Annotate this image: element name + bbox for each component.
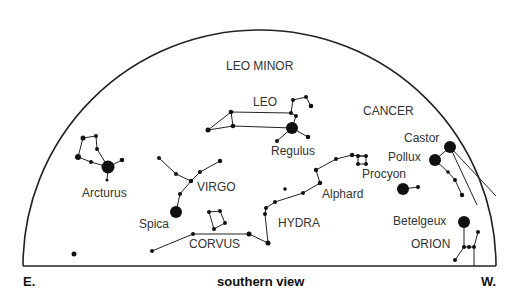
- label-leo-minor: LEO MINOR: [226, 60, 293, 72]
- star-castor: [444, 141, 456, 153]
- star-regulus: [286, 122, 298, 134]
- leo-lines: [208, 112, 292, 130]
- star-chart: [0, 0, 518, 302]
- virgo-lines: [159, 158, 220, 181]
- label-hydra: HYDRA: [278, 217, 320, 229]
- label-virgo: VIRGO: [197, 181, 236, 193]
- gemini-lines: [435, 147, 477, 205]
- label-west: W.: [481, 275, 496, 288]
- star-procyon: [397, 183, 409, 195]
- label-southern-view: southern view: [217, 275, 304, 288]
- label-betelgeux: Betelgeux: [393, 215, 446, 227]
- corvus-lines: [209, 211, 225, 229]
- label-east: E.: [23, 275, 35, 288]
- label-leo: LEO: [253, 96, 277, 108]
- star-betelgeux: [458, 216, 470, 228]
- hydra-lines: [152, 155, 364, 251]
- label-pollux: Pollux: [388, 151, 421, 163]
- label-arcturus: Arcturus: [82, 187, 127, 199]
- label-corvus: CORVUS: [189, 238, 240, 250]
- label-procyon: Procyon: [362, 168, 406, 180]
- star-arcturus: [102, 161, 115, 174]
- label-alphard: Alphard: [322, 188, 363, 200]
- label-regulus: Regulus: [271, 145, 315, 157]
- star-pollux: [429, 154, 441, 166]
- label-spica: Spica: [139, 218, 169, 230]
- label-orion: ORION: [411, 238, 450, 250]
- label-castor: Castor: [404, 132, 439, 144]
- star-spica: [170, 206, 182, 218]
- label-cancer: CANCER: [363, 105, 414, 117]
